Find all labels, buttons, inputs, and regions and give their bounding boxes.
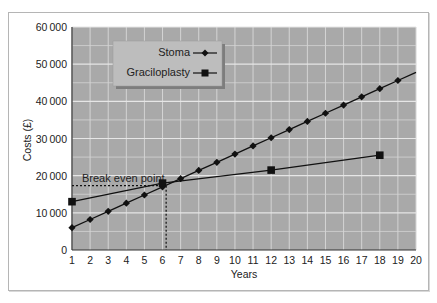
- square-marker-icon: [376, 151, 384, 159]
- y-tick-label: 40 000: [36, 95, 67, 107]
- x-tick-label: 5: [141, 254, 147, 266]
- x-tick-label: 9: [214, 254, 220, 266]
- x-tick-label: 6: [160, 254, 166, 266]
- y-tick-label: 30 000: [36, 133, 67, 145]
- y-tick-label: 10 000: [36, 207, 67, 219]
- y-tick-label: 20 000: [36, 170, 67, 182]
- x-axis-ticks: 1234567891011121314151617181920: [69, 254, 422, 266]
- y-axis-ticks: 010 00020 00030 00040 00050 00060 000: [36, 21, 67, 256]
- x-tick-label: 8: [196, 254, 202, 266]
- line-chart: 010 00020 00030 00040 00050 00060 000 12…: [0, 0, 437, 303]
- break-even-label: Break even point: [82, 172, 165, 184]
- x-tick-label: 14: [302, 254, 314, 266]
- x-tick-label: 15: [320, 254, 332, 266]
- x-axis-title: Years: [231, 268, 257, 280]
- square-marker-icon: [267, 166, 275, 174]
- square-marker-icon: [159, 179, 167, 187]
- x-tick-label: 12: [265, 254, 277, 266]
- y-tick-label: 60 000: [36, 21, 67, 33]
- legend-label-graciloplasty: Graciloplasty: [126, 66, 190, 78]
- y-tick-label: 0: [61, 244, 67, 256]
- x-tick-label: 4: [123, 254, 129, 266]
- x-tick-label: 11: [248, 254, 259, 266]
- x-tick-label: 2: [87, 254, 93, 266]
- x-tick-label: 1: [69, 254, 75, 266]
- x-tick-label: 13: [283, 254, 295, 266]
- x-tick-label: 18: [374, 254, 386, 266]
- x-tick-label: 7: [178, 254, 184, 266]
- x-tick-label: 10: [229, 254, 241, 266]
- legend-label-stoma: Stoma: [158, 46, 191, 58]
- x-tick-label: 3: [105, 254, 111, 266]
- square-marker-icon: [202, 70, 209, 77]
- y-axis-title: Costs (£): [21, 119, 33, 162]
- square-marker-icon: [68, 198, 76, 206]
- legend: Stoma Graciloplasty: [113, 41, 225, 89]
- y-tick-label: 50 000: [36, 58, 67, 70]
- x-tick-label: 20: [410, 254, 422, 266]
- x-tick-label: 16: [338, 254, 350, 266]
- x-tick-label: 17: [356, 254, 368, 266]
- x-tick-label: 19: [392, 254, 404, 266]
